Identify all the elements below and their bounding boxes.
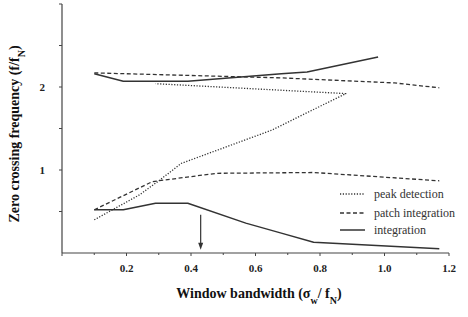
y-tick-label: 1 (40, 164, 46, 176)
legend-label: peak detection (374, 187, 444, 201)
x-tick-label: 1.0 (378, 262, 392, 274)
x-tick-label: 0.4 (184, 262, 198, 274)
series-group (94, 57, 439, 249)
annotations (198, 215, 203, 250)
series-integration (94, 57, 378, 81)
x-tick-label: 1.2 (442, 262, 456, 274)
y-tick-label: 2 (40, 81, 46, 93)
legend-label: patch integration (374, 206, 455, 220)
legend-label: integration (374, 223, 426, 237)
y-axis-label: Zero crossing frequency (f/fN) (7, 45, 27, 223)
x-tick-label: 0.2 (120, 262, 134, 274)
x-tick-label: 0.8 (313, 262, 327, 274)
zero-crossing-chart: 0.20.40.60.81.01.212 peak detectionpatch… (0, 0, 468, 317)
legend: peak detectionpatch integrationintegrati… (340, 187, 455, 237)
x-axis-label: Window bandwidth (σw/ fN) (176, 286, 342, 306)
x-tick-label: 0.6 (249, 262, 263, 274)
series-peak-detection (94, 84, 345, 220)
arrow-down-icon (198, 243, 203, 250)
